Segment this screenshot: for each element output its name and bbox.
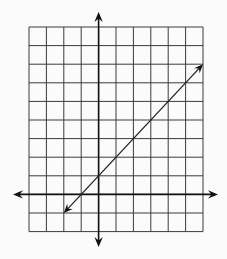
- grid: [29, 27, 203, 232]
- coordinate-graph: [0, 0, 227, 259]
